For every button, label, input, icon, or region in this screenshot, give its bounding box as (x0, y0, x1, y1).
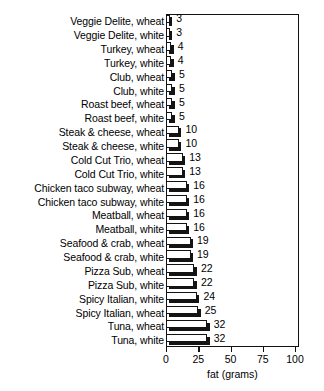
bar (166, 320, 207, 328)
x-tick-label: 75 (257, 353, 269, 365)
category-label: Club, wheat (0, 71, 164, 83)
x-tick-label: 100 (286, 353, 304, 365)
bar (166, 278, 194, 286)
bar-value-label: 22 (201, 262, 213, 274)
bar (166, 250, 191, 258)
bar-value-label: 24 (203, 290, 215, 302)
category-label: Seafood & crab, wheat (0, 237, 164, 249)
bar (166, 153, 183, 161)
category-label: Roast beef, white (0, 112, 164, 124)
x-tick-mark (198, 347, 199, 352)
x-tick-label: 25 (192, 353, 204, 365)
category-label: Spicy Italian, wheat (0, 307, 164, 319)
category-label: Spicy Italian, white (0, 293, 164, 305)
category-label: Meatball, wheat (0, 209, 164, 221)
bar-value-label: 10 (185, 123, 197, 135)
bar (166, 42, 171, 50)
category-label: Pizza Sub, wheat (0, 265, 164, 277)
bar-value-label: 19 (197, 248, 209, 260)
bar-value-label: 5 (179, 96, 185, 108)
category-label: Meatball, white (0, 223, 164, 235)
category-label: Pizza Sub, white (0, 279, 164, 291)
x-axis-title: fat (grams) (166, 368, 299, 380)
bar (166, 126, 179, 134)
bar (166, 112, 172, 120)
bar-value-label: 13 (189, 165, 201, 177)
category-label: Turkey, white (0, 57, 164, 69)
bar-value-label: 16 (193, 221, 205, 233)
bar-value-label: 19 (197, 234, 209, 246)
x-tick-mark (166, 347, 167, 352)
bar-value-label: 25 (205, 304, 217, 316)
bar-value-label: 3 (176, 12, 182, 24)
bar-value-label: 4 (178, 40, 184, 52)
bar (166, 334, 207, 342)
category-label: Steak & cheese, white (0, 140, 164, 152)
bar (166, 292, 197, 300)
category-label: Roast beef, wheat (0, 98, 164, 110)
x-tick-mark (231, 347, 232, 352)
bar-value-label: 5 (179, 68, 185, 80)
bar-value-label: 16 (193, 179, 205, 191)
category-label: Tuna, wheat (0, 320, 164, 332)
bar-value-label: 4 (178, 54, 184, 66)
x-tick-label: 50 (225, 353, 237, 365)
bar (166, 306, 198, 314)
bar-value-label: 16 (193, 193, 205, 205)
category-label: Cold Cut Trio, white (0, 168, 164, 180)
fat-grams-bar-chart: Veggie Delite, wheatVeggie Delite, white… (0, 0, 324, 391)
category-axis-labels: Veggie Delite, wheatVeggie Delite, white… (0, 14, 164, 347)
bar (166, 264, 194, 272)
bar-value-label: 32 (214, 332, 226, 344)
bar-value-label: 13 (189, 151, 201, 163)
x-tick-mark (263, 347, 264, 352)
bar-value-label: 16 (193, 207, 205, 219)
x-axis: fat (grams) 0255075100 (166, 347, 299, 391)
bar (166, 139, 179, 147)
bar-value-label: 3 (176, 26, 182, 38)
category-label: Seafood & crab, white (0, 251, 164, 263)
bar (166, 15, 170, 23)
category-label: Chicken taco subway, wheat (0, 182, 164, 194)
category-label: Veggie Delite, white (0, 29, 164, 41)
category-label: Veggie Delite, wheat (0, 15, 164, 27)
bar (166, 70, 172, 78)
bar (166, 167, 183, 175)
category-label: Chicken taco subway, white (0, 196, 164, 208)
category-label: Steak & cheese, wheat (0, 126, 164, 138)
bar (166, 223, 187, 231)
bar (166, 98, 172, 106)
category-label: Tuna, white (0, 334, 164, 346)
bar (166, 56, 171, 64)
bar-value-label: 10 (185, 137, 197, 149)
x-tick-label: 0 (163, 353, 169, 365)
bar (166, 209, 187, 217)
bar-value-label: 22 (201, 276, 213, 288)
category-label: Cold Cut Trio, wheat (0, 154, 164, 166)
x-tick-mark (295, 347, 296, 352)
bar (166, 195, 187, 203)
bar (166, 181, 187, 189)
category-label: Turkey, wheat (0, 43, 164, 55)
bar (166, 84, 172, 92)
bar-value-label: 32 (214, 318, 226, 330)
bar (166, 28, 170, 36)
bar-value-label: 5 (179, 110, 185, 122)
bar-value-label: 5 (179, 82, 185, 94)
bars-layer: 3344555510101313161616161919222224253232 (166, 14, 299, 347)
bar (166, 237, 191, 245)
category-label: Club, white (0, 85, 164, 97)
